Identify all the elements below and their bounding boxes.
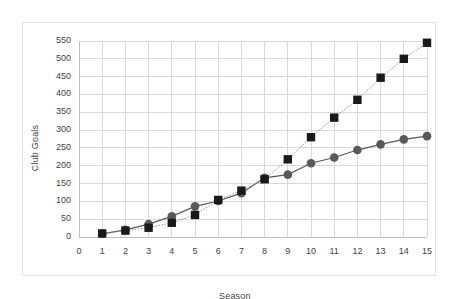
x-tick-label: 9: [280, 246, 296, 256]
y-tick-label: 350: [43, 106, 71, 116]
x-tick-label: 5: [187, 246, 203, 256]
x-tick-label: 7: [233, 246, 249, 256]
x-tick-label: 14: [396, 246, 412, 256]
x-tick-label: 13: [373, 246, 389, 256]
x-tick-label: 0: [71, 246, 87, 256]
y-tick-label: 300: [43, 124, 71, 134]
x-tick-label: 6: [210, 246, 226, 256]
y-tick-label: 400: [43, 88, 71, 98]
y-tick-label: 100: [43, 195, 71, 205]
x-tick-label: 3: [141, 246, 157, 256]
x-tick-label: 15: [419, 246, 435, 256]
x-tick-label: 4: [164, 246, 180, 256]
x-tick-label: 1: [94, 246, 110, 256]
y-tick-label: 500: [43, 53, 71, 63]
y-tick-label: 50: [43, 213, 71, 223]
x-tick-label: 12: [349, 246, 365, 256]
plot-area: Club Goals Season 0501001502002503003504…: [23, 23, 461, 299]
x-tick-label: 11: [326, 246, 342, 256]
y-tick-label: 150: [43, 178, 71, 188]
y-axis-title: Club Goals: [30, 118, 40, 178]
y-tick-label: 200: [43, 160, 71, 170]
x-tick-label: 8: [257, 246, 273, 256]
chart-frame: Club Goals Season 0501001502002503003504…: [22, 22, 436, 276]
x-tick-label: 2: [117, 246, 133, 256]
y-tick-label: 550: [43, 35, 71, 45]
y-tick-label: 450: [43, 71, 71, 81]
y-tick-label: 0: [43, 231, 71, 241]
x-tick-label: 10: [303, 246, 319, 256]
chart-canvas: [23, 23, 461, 299]
x-axis-title: Season: [219, 291, 251, 299]
y-tick-label: 250: [43, 142, 71, 152]
